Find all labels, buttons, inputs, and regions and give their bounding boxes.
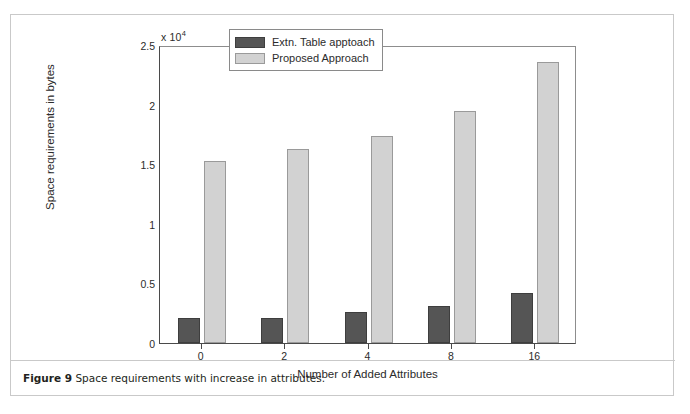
y-axis-exponent-power: 4 [182,29,186,38]
bar-proposed-approach-8 [454,111,476,343]
figure-caption-bar: Figure 9 Space requirements with increas… [11,360,675,395]
bar-extn-table-apptoach-2 [261,318,283,343]
y-tick-label: 2.5 [140,40,155,52]
legend-item[interactable]: Proposed Approach [235,50,375,66]
x-tick-mark [284,344,285,349]
legend-label: Proposed Approach [272,52,369,64]
bar-extn-table-apptoach-16 [511,293,533,343]
x-tick-mark [201,344,202,349]
plot-area [159,46,576,344]
y-axis-title: Space requirements in bytes [44,37,56,237]
legend-label: Extn. Table apptoach [272,36,375,48]
x-tick-mark [368,344,369,349]
bar-extn-table-apptoach-0 [178,318,200,343]
y-axis-exponent-base: x 10 [161,31,182,43]
y-tick-label: 2 [149,100,155,112]
y-tick-label: 0 [149,338,155,350]
figure-caption-label: Figure 9 [23,372,72,384]
y-axis-tick-labels: 0 0.5 1 1.5 2 2.5 [107,46,155,344]
bar-extn-table-apptoach-8 [428,306,450,343]
y-tick-label: 0.5 [140,278,155,290]
figure-caption: Figure 9 Space requirements with increas… [11,372,325,384]
chart-region: x 104 0 0.5 1 1.5 2 2.5 Space requiremen… [11,15,675,361]
bar-extn-table-apptoach-4 [345,312,367,343]
bar-proposed-approach-0 [204,161,226,343]
x-tick-mark [451,344,452,349]
bar-proposed-approach-2 [287,149,309,343]
y-tick-label: 1 [149,219,155,231]
legend-item[interactable]: Extn. Table apptoach [235,34,375,50]
bar-proposed-approach-16 [537,62,559,343]
legend-swatch-icon [235,37,265,48]
figure-container: x 104 0 0.5 1 1.5 2 2.5 Space requiremen… [10,14,674,396]
chart-legend: Extn. Table apptoach Proposed Approach [229,29,383,71]
figure-caption-body: Space requirements with increase in attr… [75,372,325,384]
bar-proposed-approach-4 [371,136,393,343]
legend-swatch-icon [235,53,265,64]
y-tick-label: 1.5 [140,159,155,171]
x-tick-mark [534,344,535,349]
y-axis-exponent-label: x 104 [161,29,186,43]
